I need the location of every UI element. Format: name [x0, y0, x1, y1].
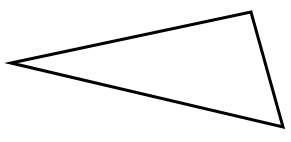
triangle-svg [0, 0, 291, 142]
figure-canvas [0, 0, 291, 142]
